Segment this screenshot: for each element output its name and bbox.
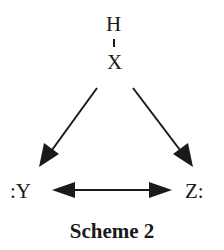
reaction-scheme: H X :Y Z: Scheme 2 bbox=[0, 0, 224, 250]
atom-h: H bbox=[106, 14, 121, 35]
arrow-hx-to-z bbox=[133, 88, 193, 167]
scheme-arrows bbox=[0, 0, 224, 250]
atom-y: :Y bbox=[10, 181, 31, 202]
atom-z: Z: bbox=[185, 181, 204, 202]
scheme-caption: Scheme 2 bbox=[0, 221, 224, 242]
arrow-y-z-equilibrium bbox=[52, 182, 172, 198]
atom-x: X bbox=[107, 52, 122, 73]
arrow-hx-to-y bbox=[39, 88, 97, 167]
